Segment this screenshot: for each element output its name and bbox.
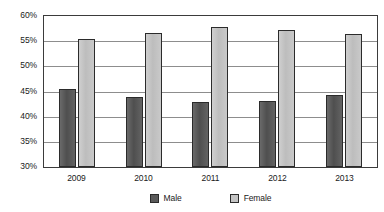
y-axis-tick-label: 35% (20, 137, 37, 146)
y-axis-tick-label: 60% (20, 11, 37, 20)
legend-item-female[interactable]: Female (230, 194, 272, 203)
legend-swatch-icon (230, 194, 239, 203)
bar-female-2011[interactable] (211, 27, 228, 167)
legend-label: Female (244, 194, 272, 203)
x-axis-tick-label: 2013 (311, 170, 378, 186)
bar-female-2010[interactable] (145, 33, 162, 167)
x-axis: 20092010201120122013 (43, 170, 378, 186)
bar-male-2012[interactable] (259, 101, 276, 167)
legend-label: Male (164, 194, 182, 203)
bar-male-2010[interactable] (126, 97, 143, 167)
bar-male-2009[interactable] (59, 89, 76, 167)
chart-legend: MaleFemale (43, 190, 378, 206)
x-axis-tick-label: 2009 (43, 170, 110, 186)
bar-male-2013[interactable] (326, 95, 343, 167)
bar-group-2012 (244, 16, 311, 167)
y-axis-tick-label: 55% (20, 36, 37, 45)
bar-male-2011[interactable] (192, 102, 209, 167)
bar-group-2013 (310, 16, 377, 167)
y-axis-tick-label: 45% (20, 86, 37, 95)
y-axis: 60%55%50%45%40%35%30% (0, 0, 41, 212)
x-axis-tick-label: 2012 (244, 170, 311, 186)
bar-group-2010 (111, 16, 178, 167)
bar-female-2013[interactable] (345, 34, 362, 167)
bar-female-2012[interactable] (278, 30, 295, 167)
bars-layer (44, 16, 377, 167)
bar-female-2009[interactable] (78, 39, 95, 167)
legend-swatch-icon (150, 194, 159, 203)
y-axis-tick-label: 50% (20, 61, 37, 70)
bar-group-2011 (177, 16, 244, 167)
y-axis-tick-label: 30% (20, 162, 37, 171)
x-axis-tick-label: 2011 (177, 170, 244, 186)
legend-item-male[interactable]: Male (150, 194, 182, 203)
bar-chart: 60%55%50%45%40%35%30% 200920102011201220… (0, 0, 384, 212)
bar-group-2009 (44, 16, 111, 167)
y-axis-tick-label: 40% (20, 111, 37, 120)
x-axis-tick-label: 2010 (110, 170, 177, 186)
plot-area (43, 15, 378, 168)
